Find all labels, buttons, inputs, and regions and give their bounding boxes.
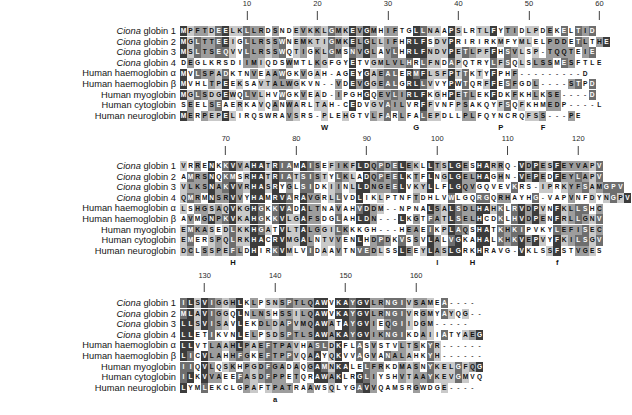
residue-cell: T	[434, 161, 441, 171]
residue-cell: A	[300, 383, 307, 393]
residue-track: QMRMNSRVVYHAMRVARAVGRLLVDLIKLPTNFTDHLVWL…	[180, 193, 631, 203]
residue-cell: Q	[222, 47, 229, 57]
residue-cell: L	[539, 37, 546, 47]
residue-cell: S	[525, 47, 532, 57]
residue-cell: H	[398, 47, 405, 57]
residue-cell: E	[335, 111, 342, 121]
residue-cell: P	[215, 79, 222, 89]
sequence-label-genus: Ciona	[117, 58, 141, 68]
residue-cell: V	[201, 362, 208, 372]
residue-cell: L	[307, 225, 314, 235]
residue-cell: A	[321, 246, 328, 256]
residue-cell: K	[243, 225, 250, 235]
residue-cell: R	[469, 37, 476, 47]
residue-cell: N	[384, 309, 391, 319]
residue-pad	[603, 172, 610, 182]
residue-cell: P	[243, 383, 250, 393]
residue-cell: H	[250, 172, 257, 182]
residue-cell: T	[293, 372, 300, 382]
residue-cell: L	[469, 111, 476, 121]
residue-cell: L	[250, 298, 257, 308]
residue-cell: S	[222, 362, 229, 372]
residue-cell: S	[413, 341, 420, 351]
residue-cell: P	[258, 298, 265, 308]
residue-cell: S	[384, 246, 391, 256]
residue-gap: -	[469, 309, 476, 319]
residue-cell: Y	[328, 172, 335, 182]
residue-pad	[610, 235, 617, 245]
residue-cell: S	[504, 58, 511, 68]
residue-cell: L	[236, 298, 243, 308]
residue-cell: R	[222, 193, 229, 203]
residue-cell: I	[258, 246, 265, 256]
ruler-tick-mark	[317, 11, 318, 20]
residue-cell: P	[532, 214, 539, 224]
residue-cell: V	[222, 330, 229, 340]
residue-pad	[603, 204, 610, 214]
residue-cell: K	[342, 26, 349, 36]
residue-cell: F	[236, 351, 243, 361]
residue-cell: S	[201, 90, 208, 100]
residue-cell: A	[222, 319, 229, 329]
residue-cell: G	[328, 47, 335, 57]
residue-cell: K	[384, 362, 391, 372]
residue-cell: T	[490, 225, 497, 235]
residue-cell: M	[180, 47, 187, 57]
ruler-tick-mark	[366, 146, 367, 155]
residue-cell: M	[180, 79, 187, 89]
residue-gap: -	[462, 341, 469, 351]
sequence-label: Human haemoglobin α	[0, 340, 180, 351]
residue-cell: G	[250, 362, 257, 372]
residue-cell: V	[236, 193, 243, 203]
residue-cell: L	[448, 362, 455, 372]
residue-cell: I	[335, 90, 342, 100]
residue-cell: A	[258, 161, 265, 171]
residue-cell: K	[469, 69, 476, 79]
alignment-row: Human haemoglobin βAVMGNPKVKAHGKKVLGAFSD…	[0, 214, 632, 225]
residue-cell: H	[391, 372, 398, 382]
residue-cell: E	[561, 58, 568, 68]
residue-cell: G	[215, 309, 222, 319]
residue-cell: E	[222, 111, 229, 121]
residue-cell: M	[427, 309, 434, 319]
residue-cell: A	[328, 204, 335, 214]
residue-cell: I	[236, 58, 243, 68]
alignment-rows: Ciona globin 1VRRENKKVVAHATRIAMAISEFIKFL…	[0, 161, 632, 256]
residue-cell: D	[525, 161, 532, 171]
residue-cell: T	[272, 351, 279, 361]
sequence-label-rest: globin 2	[141, 172, 176, 182]
ruler-tick-mark	[458, 11, 459, 20]
residue-cell: A	[279, 362, 286, 372]
residue-cell: H	[194, 204, 201, 214]
residue-pad	[596, 26, 603, 36]
residue-cell: L	[455, 193, 462, 203]
residue-cell: H	[370, 225, 377, 235]
sequence-label-rest: globin 2	[141, 309, 176, 319]
residue-cell: S	[539, 58, 546, 68]
conserved-marker-letter: a	[273, 395, 277, 404]
sequence-label: Human myoglobin	[0, 225, 180, 236]
residue-cell: L	[201, 383, 208, 393]
residue-cell: M	[187, 193, 194, 203]
residue-cell: T	[201, 330, 208, 340]
sequence-label-rest: globin 3	[141, 47, 176, 57]
residue-cell: S	[279, 58, 286, 68]
residue-cell: P	[448, 47, 455, 57]
residue-cell: I	[293, 309, 300, 319]
residue-cell: V	[363, 383, 370, 393]
ruler-tick-label: 40	[454, 0, 462, 8]
residue-cell: G	[222, 309, 229, 319]
residue-cell: A	[406, 362, 413, 372]
residue-gap: -	[384, 204, 391, 214]
ruler-tick-mark	[528, 11, 529, 20]
residue-cell: V	[441, 193, 448, 203]
residue-cell: V	[518, 246, 525, 256]
residue-cell: F	[553, 204, 560, 214]
sequence-label: Ciona globin 3	[0, 182, 180, 193]
residue-gap: -	[546, 79, 553, 89]
residue-cell: M	[427, 298, 434, 308]
residue-cell: D	[589, 193, 596, 203]
residue-cell: A	[307, 341, 314, 351]
residue-cell: F	[265, 341, 272, 351]
residue-cell: V	[208, 372, 215, 382]
